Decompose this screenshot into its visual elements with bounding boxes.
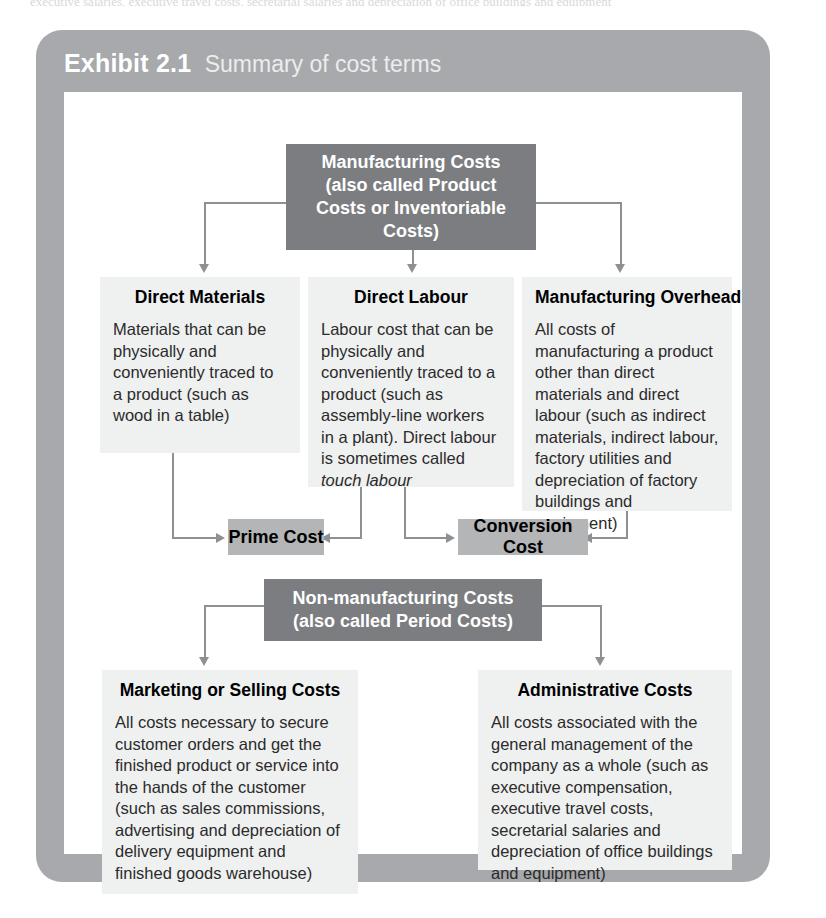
node-non-manufacturing-costs-text: Non-manufacturing Costs (also called Per…: [284, 587, 521, 633]
node-direct-labour-body-text: Labour cost that can be physically and c…: [321, 320, 496, 467]
non-manufacturing-costs-line-1: Non-manufacturing Costs: [292, 588, 513, 608]
connector-dl-to-conversion: [404, 537, 446, 539]
arrowhead-dm-into-prime-cost: [216, 533, 225, 543]
non-manufacturing-costs-line-2: (also called Period Costs): [293, 611, 513, 631]
node-manufacturing-overhead-title: Manufacturing Overhead: [535, 287, 719, 308]
node-marketing-selling-costs-title: Marketing or Selling Costs: [115, 680, 345, 701]
connector-moh-to-conversion: [592, 537, 628, 539]
exhibit-subtitle: Summary of cost terms: [205, 51, 441, 77]
manufacturing-costs-line-4: Costs): [383, 221, 439, 241]
exhibit-frame: Exhibit 2.1 Summary of cost terms Manufa…: [36, 30, 770, 882]
node-conversion-cost-title: Conversion Cost: [458, 516, 588, 558]
arrowhead-to-administrative-costs: [595, 657, 605, 666]
node-administrative-costs-title: Administrative Costs: [491, 680, 719, 701]
node-administrative-costs[interactable]: Administrative Costs All costs associate…: [478, 670, 732, 870]
node-direct-labour-body-emphasis: touch labour: [321, 471, 412, 489]
connector-dl-down-left: [360, 487, 362, 539]
connector-dl-to-prime: [330, 537, 362, 539]
manufacturing-costs-line-3: Costs or Inventoriable: [316, 198, 506, 218]
connector-dm-to-prime: [172, 537, 216, 539]
node-direct-labour-body: Labour cost that can be physically and c…: [321, 319, 501, 491]
arrowhead-to-direct-materials: [199, 264, 209, 273]
exhibit-number-label: Exhibit 2.1: [64, 49, 191, 77]
connector-dm-down: [172, 453, 174, 539]
node-non-manufacturing-costs[interactable]: Non-manufacturing Costs (also called Per…: [264, 579, 542, 641]
node-conversion-cost[interactable]: Conversion Cost: [458, 519, 588, 555]
connector-bus-nonmfg-right-drop: [600, 605, 602, 657]
arrowhead-to-direct-labour: [407, 264, 417, 273]
node-manufacturing-overhead-body: All costs of manufacturing a product oth…: [535, 319, 719, 534]
node-direct-materials[interactable]: Direct Materials Materials that can be p…: [100, 277, 300, 453]
exhibit-header: Exhibit 2.1 Summary of cost terms: [64, 46, 441, 80]
node-manufacturing-costs-text: Manufacturing Costs (also called Product…: [308, 151, 514, 243]
connector-bus-nonmfg-left-drop: [204, 605, 206, 657]
node-direct-materials-title: Direct Materials: [113, 287, 287, 308]
node-direct-labour-title: Direct Labour: [321, 287, 501, 308]
arrowhead-dl-into-conversion-cost: [446, 533, 455, 543]
connector-moh-down: [626, 511, 628, 539]
node-marketing-selling-costs-body: All costs necessary to secure customer o…: [115, 712, 345, 884]
node-direct-materials-body: Materials that can be physically and con…: [113, 319, 287, 427]
page-top-text-sliver: executive salaries, executive travel cos…: [30, 0, 790, 6]
node-prime-cost[interactable]: Prime Cost: [228, 519, 324, 555]
node-direct-labour[interactable]: Direct Labour Labour cost that can be ph…: [308, 277, 514, 487]
connector-dl-down-right: [404, 487, 406, 539]
arrowhead-to-marketing-selling-costs: [199, 657, 209, 666]
arrowhead-to-manufacturing-overhead: [615, 264, 625, 273]
node-administrative-costs-body: All costs associated with the general ma…: [491, 712, 719, 884]
node-manufacturing-overhead[interactable]: Manufacturing Overhead All costs of manu…: [522, 277, 732, 511]
connector-bus-right-drop: [620, 202, 622, 264]
connector-bus-left-drop: [204, 202, 206, 264]
manufacturing-costs-line-1: Manufacturing Costs: [321, 152, 500, 172]
manufacturing-costs-line-2: (also called Product: [325, 175, 496, 195]
node-manufacturing-costs[interactable]: Manufacturing Costs (also called Product…: [286, 144, 536, 250]
node-prime-cost-title: Prime Cost: [228, 527, 323, 548]
exhibit-diagram-canvas: Manufacturing Costs (also called Product…: [64, 92, 742, 854]
node-marketing-selling-costs[interactable]: Marketing or Selling Costs All costs nec…: [102, 670, 358, 894]
